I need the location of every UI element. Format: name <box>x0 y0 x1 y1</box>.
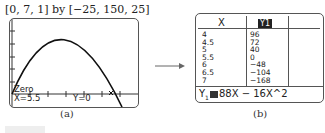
divider <box>198 28 320 29</box>
y-column: 96 72 40 0 −48 −104 −168 <box>250 31 271 84</box>
window-label: [0, 7, 1] by [−25, 150, 25] <box>5 3 150 16</box>
x-column: 4 4.5 5 5.5 6 6.5 7 <box>202 31 214 84</box>
figure-caption-cutoff <box>5 126 45 133</box>
x-readout: X=5.5 <box>14 94 40 103</box>
equation-line: Y188X − 16X^2 <box>199 88 288 101</box>
divider <box>288 16 289 86</box>
graph-screen: Zero X=5.5 Y=0 <box>9 18 139 108</box>
divider <box>246 16 247 86</box>
arrow-right-icon <box>155 62 185 70</box>
equals-block-icon <box>210 91 218 98</box>
col-x-header: X <box>218 17 225 28</box>
table-screen: X Y1 4 4.5 5 5.5 6 6.5 7 96 72 40 0 −48 … <box>195 13 324 103</box>
caption-b: (b) <box>253 108 267 119</box>
y-readout: Y=0 <box>73 94 91 103</box>
col-y1-header: Y1 <box>258 19 272 28</box>
divider <box>196 86 323 87</box>
caption-a: (a) <box>60 108 74 119</box>
